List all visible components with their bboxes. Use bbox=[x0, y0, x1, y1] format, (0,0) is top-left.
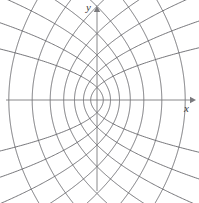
parabolas-opening-left-4 bbox=[83, 0, 144, 203]
parabolas-opening-left-5 bbox=[118, 0, 162, 203]
parabolas-opening-left-2 bbox=[0, 0, 120, 203]
parabola-family-plot bbox=[0, 0, 199, 203]
parabolas-opening-right-5 bbox=[32, 0, 76, 203]
parabolas-opening-right-4 bbox=[50, 0, 111, 203]
y-axis-label: y bbox=[86, 2, 91, 13]
axes-group bbox=[6, 6, 196, 191]
figure-orthogonal-parabolas: y x bbox=[0, 0, 199, 203]
curve-group-opening-left bbox=[0, 0, 185, 203]
x-axis-label: x bbox=[184, 103, 189, 114]
x-axis-arrow bbox=[190, 97, 196, 103]
